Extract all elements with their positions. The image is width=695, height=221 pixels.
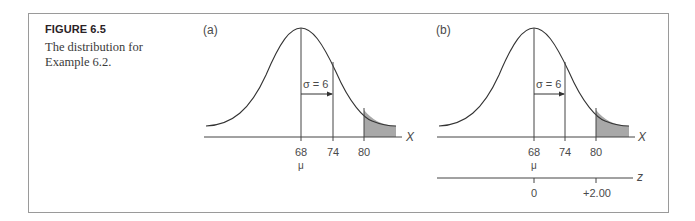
- panel-a-label: (a): [203, 23, 218, 37]
- panel-b: (b) X σ = 6 68 74 80 μ z 0 +2.00: [436, 23, 647, 199]
- panel-a-axis-label: X: [405, 130, 415, 144]
- panel-b-sigma-label: σ = 6: [536, 78, 561, 90]
- panel-a-mu-label: μ: [298, 160, 304, 171]
- panel-a-sigma-label: σ = 6: [303, 78, 328, 90]
- panel-b-mu-label: μ: [531, 160, 537, 171]
- panel-b-z-tick-label-0: 0: [531, 187, 537, 199]
- figure-plots: (a) X σ = 6 68 74 80 μ (b) X σ = 6 68 74…: [0, 0, 695, 221]
- panel-b-tick-74: 74: [559, 146, 571, 158]
- panel-b-tick-80: 80: [590, 146, 602, 158]
- panel-a: (a) X σ = 6 68 74 80 μ: [203, 23, 415, 171]
- panel-a-tick-74: 74: [327, 146, 339, 158]
- panel-a-tick-80: 80: [358, 146, 370, 158]
- panel-b-z-tick-label-2: +2.00: [583, 187, 611, 199]
- panel-b-z-label: z: [636, 170, 643, 184]
- panel-a-tick-68: 68: [295, 146, 307, 158]
- panel-b-tick-68: 68: [528, 146, 540, 158]
- panel-b-axis-label: X: [637, 130, 647, 144]
- panel-b-label: (b): [436, 23, 451, 37]
